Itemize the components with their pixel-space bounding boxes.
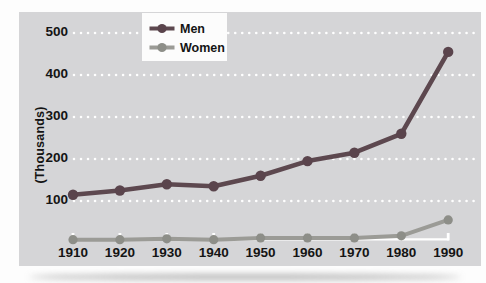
data-point-men: [443, 47, 453, 57]
data-point-men: [396, 129, 406, 139]
legend-item-men: Men: [148, 19, 227, 38]
legend-label: Men: [180, 22, 205, 36]
legend-marker-icon: [148, 42, 176, 53]
x-tick-label: 1970: [339, 245, 369, 260]
y-tick-label: 200: [24, 150, 68, 165]
x-tick-label: 1940: [199, 245, 229, 260]
data-point-women: [350, 233, 359, 242]
page-scan-shadow: [28, 274, 462, 280]
data-point-men: [162, 179, 172, 189]
data-point-women: [303, 233, 312, 242]
legend-item-women: Women: [148, 38, 227, 57]
data-point-women: [162, 234, 171, 243]
legend-label: Women: [180, 41, 225, 55]
x-tick-label: 1980: [386, 245, 416, 260]
data-point-men: [115, 185, 125, 195]
data-point-women: [397, 231, 406, 240]
data-point-men: [209, 181, 219, 191]
data-point-men: [302, 156, 312, 166]
data-point-men: [68, 190, 78, 200]
x-tick-label: 1920: [105, 245, 135, 260]
page: (Thousands) 500400300200100 191019201930…: [0, 0, 486, 283]
data-point-men: [349, 148, 359, 158]
data-point-women: [444, 215, 453, 224]
x-tick-label: 1930: [152, 245, 182, 260]
y-tick-label: 300: [24, 108, 68, 123]
x-tick-label: 1990: [433, 245, 463, 260]
data-point-women: [115, 235, 124, 244]
data-point-women: [209, 235, 218, 244]
legend-marker-icon: [148, 23, 176, 34]
data-point-men: [255, 171, 265, 181]
y-tick-label: 500: [24, 24, 68, 39]
y-tick-label: 400: [24, 66, 68, 81]
y-tick-label: 100: [24, 192, 68, 207]
chart-canvas: [0, 0, 486, 283]
data-point-women: [256, 233, 265, 242]
x-tick-label: 1910: [58, 245, 88, 260]
data-point-women: [68, 235, 77, 244]
x-tick-label: 1960: [292, 245, 322, 260]
x-tick-label: 1950: [246, 245, 276, 260]
legend: MenWomen: [142, 13, 227, 61]
